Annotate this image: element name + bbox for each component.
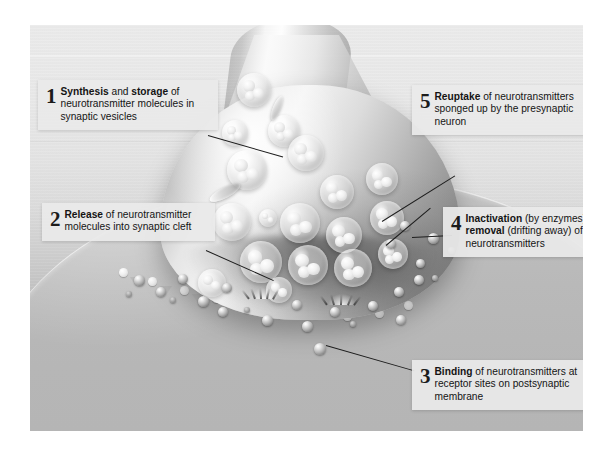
neurotransmitter-molecule — [368, 301, 378, 311]
illustration-page: 1 Synthesis and storage of neurotransmit… — [0, 0, 611, 452]
synaptic-vesicle — [213, 203, 251, 241]
neurotransmitter-molecule — [262, 315, 273, 326]
receptor-site — [119, 268, 128, 277]
synaptic-vesicle — [198, 269, 226, 297]
neurotransmitter-molecule — [414, 275, 424, 285]
neurotransmitter-molecule — [126, 291, 132, 297]
callout-text-3: Binding of neurotransmitters at receptor… — [435, 366, 581, 403]
callout-label-2: 2 Release of neurotransmitter molecules … — [42, 203, 215, 241]
neurotransmitter-molecule — [178, 274, 188, 284]
neurotransmitter-molecule — [350, 321, 356, 327]
neurotransmitter-molecule — [156, 287, 166, 297]
callout-text-2: Release of neurotransmitter molecules in… — [65, 209, 207, 234]
neurotransmitter-molecule — [394, 287, 404, 297]
neurotransmitter-molecule — [134, 275, 145, 286]
callout-label-1: 1 Synthesis and storage of neurotransmit… — [38, 80, 218, 130]
receptor-site — [148, 277, 157, 286]
neurotransmitter-molecule — [302, 321, 313, 332]
neurotransmitter-drifting — [432, 275, 438, 281]
synaptic-vesicle — [237, 73, 271, 107]
neurotransmitter-drifting — [416, 259, 425, 268]
neurotransmitter-molecule — [330, 307, 340, 317]
callout-text-1: Synthesis and storage of neurotransmitte… — [61, 86, 210, 123]
receptor-site — [404, 301, 413, 310]
callout-number-3: 3 — [420, 367, 431, 386]
callout-label-5: 5 Reuptake of neurotransmitters sponged … — [412, 85, 583, 135]
callout-number-2: 2 — [50, 210, 61, 229]
callout-label-4: 4 Inactivation (by enzymes) or removal (… — [443, 207, 583, 257]
synaptic-vesicle — [288, 135, 324, 171]
synaptic-vesicle — [259, 209, 277, 227]
neurotransmitter-molecule — [292, 300, 302, 310]
neurotransmitter-molecule — [218, 307, 228, 317]
vesicle-fusion-burst — [244, 283, 284, 299]
callout-text-4: Inactivation (by enzymes) or removal (dr… — [466, 213, 584, 250]
synaptic-vesicle — [280, 203, 320, 243]
callout-number-1: 1 — [46, 87, 57, 106]
callout-number-4: 4 — [451, 214, 462, 233]
neurotransmitter-molecule — [314, 343, 326, 355]
vesicle-fusion-burst — [322, 289, 362, 305]
neurotransmitter-drifting — [396, 315, 406, 325]
synaptic-vesicle — [326, 217, 362, 253]
callout-label-3: 3 Binding of neurotransmitters at recept… — [412, 360, 583, 410]
neurotransmitter-molecule — [222, 283, 232, 293]
callout-number-5: 5 — [420, 92, 431, 111]
synapse-diagram: 1 Synthesis and storage of neurotransmit… — [30, 25, 583, 431]
synaptic-vesicle — [288, 245, 328, 285]
receptor-site — [180, 286, 189, 295]
synaptic-vesicle — [366, 163, 398, 195]
neurotransmitter-molecule — [198, 296, 209, 307]
callout-text-5: Reuptake of neurotransmitters sponged up… — [435, 91, 584, 128]
neurotransmitter-molecule — [170, 297, 176, 303]
synaptic-vesicle — [320, 175, 354, 209]
synaptic-vesicle — [334, 249, 372, 287]
neurotransmitter-molecule — [244, 307, 250, 313]
